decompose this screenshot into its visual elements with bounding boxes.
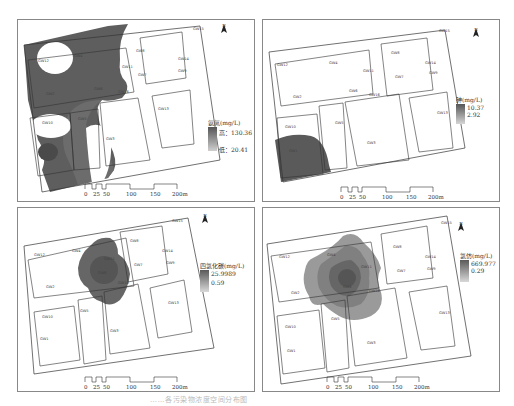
map-panel-chloroform: GW12 GW4 GW11 GW8 GW14 GW7 GW9 GW15 GW2 … — [262, 207, 500, 392]
svg-text:GW4: GW4 — [329, 61, 338, 65]
svg-text:GW8: GW8 — [136, 49, 145, 53]
svg-text:GW13: GW13 — [168, 301, 179, 305]
legend-title: 氨氮(mg/L) — [208, 119, 240, 126]
svg-text:GW3: GW3 — [367, 141, 376, 145]
scale-label: 200m — [172, 384, 188, 390]
svg-text:GW10: GW10 — [285, 325, 297, 329]
block — [152, 90, 194, 148]
svg-text:GW5: GW5 — [78, 117, 87, 121]
svg-text:GW13: GW13 — [437, 111, 448, 115]
svg-text:GW6: GW6 — [343, 285, 352, 289]
block — [150, 280, 192, 338]
north-arrow-icon — [200, 214, 210, 223]
svg-text:GW4: GW4 — [72, 249, 81, 253]
block — [409, 92, 453, 152]
svg-text:GW7: GW7 — [138, 73, 147, 77]
svg-text:GW2: GW2 — [46, 92, 55, 96]
svg-text:GW11: GW11 — [122, 65, 133, 69]
svg-text:GW5: GW5 — [80, 309, 89, 313]
svg-text:GW11: GW11 — [104, 257, 115, 261]
svg-text:GW3: GW3 — [106, 137, 115, 141]
map-panel-ammonia: GW12 GW4 GW11 GW8 GW14 GW7 GW9 GW15 GW2 … — [17, 19, 255, 202]
svg-text:GW12: GW12 — [38, 59, 49, 63]
svg-text:GW2: GW2 — [46, 285, 55, 289]
legend: 氯仿(mg/L) 669.977 0.29 — [460, 252, 492, 259]
scale-bar-graphic — [326, 375, 438, 383]
svg-text:GW7: GW7 — [134, 263, 143, 267]
legend-high: 25.9989 — [211, 270, 236, 277]
scale-bar: 0 25 50 100 150 200m — [84, 375, 196, 391]
legend-title: 四氯化碳(mg/L) — [200, 262, 244, 269]
svg-text:GW10: GW10 — [42, 121, 54, 125]
svg-text:GW15: GW15 — [441, 221, 452, 225]
scale-label: 50 — [359, 194, 366, 200]
scale-label: 100 — [368, 384, 379, 390]
svg-text:GW5: GW5 — [331, 317, 340, 321]
scale-label: 0 — [84, 191, 88, 197]
svg-text:GW8: GW8 — [391, 51, 400, 55]
scale-bar: 0 25 50 100 150 200m — [84, 182, 196, 198]
svg-text:GW9: GW9 — [166, 261, 175, 265]
north-arrow-icon — [219, 24, 229, 33]
legend-gradient — [460, 260, 469, 282]
map-panel-arsenic: GW12 GW4 GW11 GW8 GW14 GW7 GW9 GW15 GW2 … — [262, 19, 500, 202]
svg-text:GW16: GW16 — [369, 93, 381, 97]
block — [275, 50, 373, 106]
svg-text:GW6: GW6 — [349, 89, 358, 93]
scale-label: 50 — [345, 384, 352, 390]
legend-title: 砷(mg/L) — [456, 96, 482, 103]
scale-label: 0 — [326, 384, 330, 390]
scale-bar: 0 25 50 100 150 200m — [340, 185, 452, 201]
legend-gradient — [456, 104, 465, 124]
legend-high: 10.37 — [467, 104, 484, 111]
scale-label: 150 — [392, 384, 403, 390]
block — [277, 310, 325, 374]
svg-text:GW8: GW8 — [130, 239, 139, 243]
svg-text:GW2: GW2 — [291, 291, 300, 295]
north-arrow-icon — [471, 28, 481, 37]
block — [34, 306, 80, 366]
legend: 氨氮(mg/L) 高：130.36 低：20.41 — [208, 119, 240, 126]
map-canvas: GW12 GW4 GW11 GW8 GW14 GW7 GW9 GW15 GW2 … — [263, 20, 501, 203]
svg-text:GW12: GW12 — [279, 255, 290, 259]
scale-label: 100 — [382, 194, 393, 200]
svg-text:GW14: GW14 — [178, 57, 190, 61]
svg-text:GW13: GW13 — [158, 107, 169, 111]
scale-label: 0 — [340, 194, 344, 200]
svg-text:GW10: GW10 — [285, 125, 297, 129]
scale-label: 100 — [126, 384, 137, 390]
svg-text:GW3: GW3 — [110, 329, 119, 333]
svg-text:GW1: GW1 — [289, 149, 298, 153]
scale-bar-graphic — [84, 375, 196, 383]
svg-text:GW15: GW15 — [439, 29, 450, 33]
scale-label: 0 — [84, 384, 88, 390]
north-arrow-icon — [456, 222, 466, 231]
legend-low: 0.59 — [211, 279, 224, 286]
svg-text:GW7: GW7 — [395, 75, 404, 79]
scale-bar-graphic — [340, 185, 452, 193]
svg-text:GW14: GW14 — [425, 61, 437, 65]
north-arrow: N — [471, 28, 481, 42]
legend-gradient — [208, 127, 217, 151]
scale-label: 100 — [126, 191, 137, 197]
map-canvas: GW12 GW4 GW11 GW8 GW14 GW7 GW9 GW15 GW2 … — [18, 208, 256, 393]
block — [381, 38, 433, 96]
legend-low: 2.92 — [467, 111, 480, 118]
legend: 四氯化碳(mg/L) 25.9989 0.59 — [200, 262, 244, 269]
svg-text:GW6: GW6 — [94, 87, 103, 91]
svg-text:GW11: GW11 — [363, 69, 374, 73]
svg-text:GW1: GW1 — [40, 337, 49, 341]
svg-text:GW7: GW7 — [397, 269, 406, 273]
north-arrow: N — [456, 222, 466, 236]
svg-text:GW11: GW11 — [361, 265, 372, 269]
svg-text:GW15: GW15 — [172, 219, 183, 223]
map-canvas: GW12 GW4 GW11 GW8 GW14 GW7 GW9 GW15 GW2 … — [18, 20, 256, 203]
scale-label: 50 — [103, 191, 110, 197]
legend-low: 低：20.41 — [219, 146, 248, 153]
svg-text:GW13: GW13 — [439, 311, 450, 315]
svg-text:GW3: GW3 — [367, 341, 376, 345]
svg-text:GW12: GW12 — [34, 253, 45, 257]
legend-low: 0.29 — [471, 267, 484, 274]
block — [78, 296, 106, 364]
scale-label: 150 — [406, 194, 417, 200]
